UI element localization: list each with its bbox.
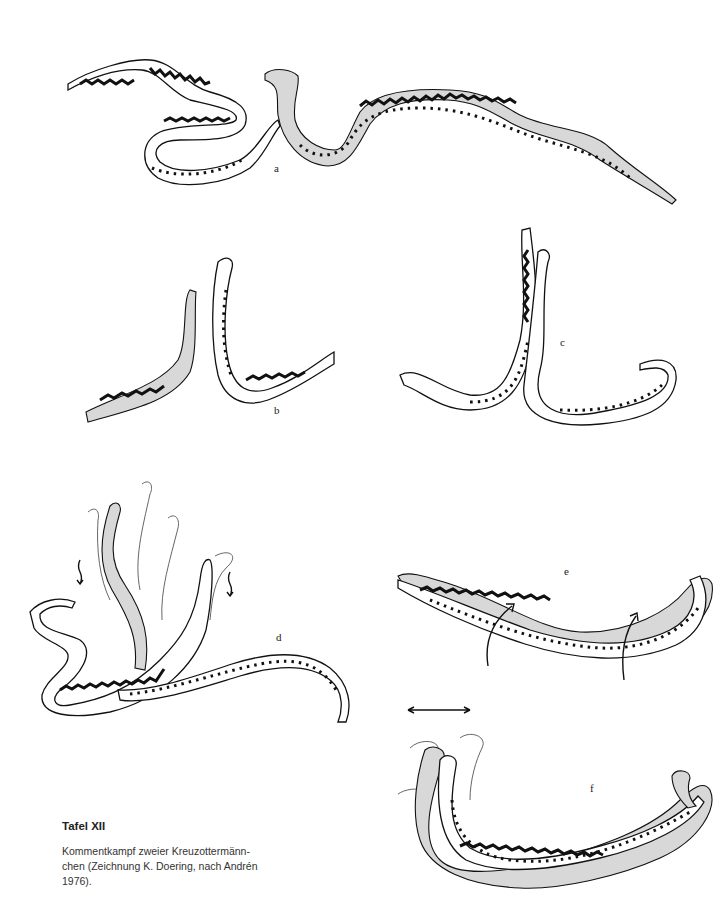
caption-title: Tafel XII (62, 820, 262, 832)
panel-d-illustration (30, 482, 349, 722)
panel-b-illustration (86, 258, 334, 422)
panel-label-a: a (274, 162, 279, 174)
caption-line-2: chen (Zeichnung K. Doering, nach Andrén (62, 859, 262, 874)
caption-line-3: 1976). (62, 874, 262, 889)
figure-caption: Tafel XII Kommentkampf zweier Kreuzotter… (62, 820, 262, 889)
panel-f-illustration (398, 707, 712, 888)
panel-c-illustration (400, 228, 676, 425)
double-headed-arrow-icon (408, 707, 470, 713)
panel-label-f: f (590, 782, 594, 794)
snake-illustrations (0, 0, 724, 917)
caption-text: Kommentkampf zweier Kreuzottermänn- chen… (62, 844, 262, 889)
caption-line-1: Kommentkampf zweier Kreuzottermänn- (62, 844, 262, 859)
illustration-plate: a b c d e f (0, 0, 724, 917)
panel-a-illustration (68, 60, 676, 204)
panel-label-c: c (560, 336, 565, 348)
panel-e-illustration (398, 574, 712, 680)
panel-label-e: e (564, 565, 569, 577)
panel-label-b: b (274, 404, 280, 416)
panel-label-d: d (276, 631, 282, 643)
